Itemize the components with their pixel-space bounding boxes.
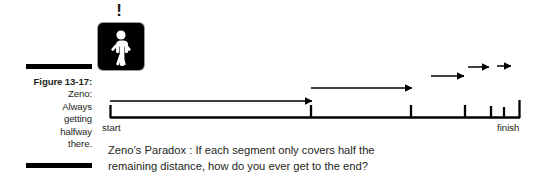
caption-rule-bottom: [26, 163, 92, 168]
start-label: start: [102, 122, 121, 133]
baseline-ticks: [111, 100, 520, 118]
zeno-number-line-diagram: [0, 0, 553, 140]
segment-arrows: [110, 66, 511, 101]
zeno-paradox-figure: Figure 13-17: Zeno: Always getting halfw…: [0, 0, 553, 187]
paradox-line-1: Zeno’s Paradox : If each segment only co…: [108, 143, 538, 159]
paradox-description: Zeno’s Paradox : If each segment only co…: [108, 143, 538, 174]
paradox-line-2: remaining distance, how do you ever get …: [108, 159, 538, 175]
finish-label: finish: [497, 122, 519, 133]
